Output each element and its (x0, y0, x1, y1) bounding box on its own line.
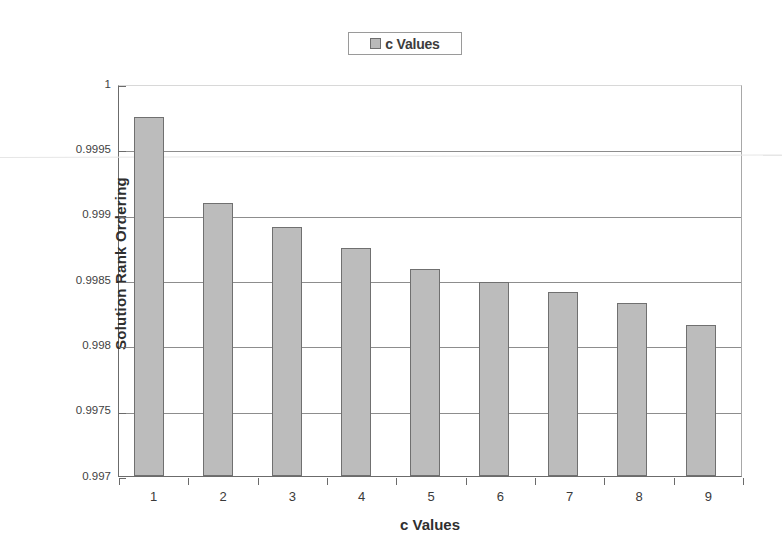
x-tick-mark-8 (674, 478, 675, 485)
y-tick-mark-5 (119, 413, 126, 414)
y-tick-label-1: 0.9995 (57, 143, 111, 155)
x-tick-label-9: 9 (688, 489, 728, 504)
bar-7[interactable] (548, 292, 578, 476)
y-tick-label-3: 0.9985 (57, 274, 111, 286)
legend-swatch-icon (370, 38, 381, 49)
y-tick-mark-6 (119, 478, 126, 479)
x-tick-label-3: 3 (272, 489, 312, 504)
bar-2[interactable] (203, 203, 233, 476)
y-tick-label-5: 0.9975 (57, 404, 111, 416)
x-tick-label-7: 7 (550, 489, 590, 504)
x-tick-label-1: 1 (134, 489, 174, 504)
bar-6[interactable] (479, 282, 509, 476)
y-tick-mark-2 (119, 217, 126, 218)
y-tick-label-4: 0.998 (57, 339, 111, 351)
y-tick-mark-1 (119, 151, 126, 152)
bar-5[interactable] (410, 269, 440, 476)
y-tick-mark-3 (119, 282, 126, 283)
x-tick-mark-0 (119, 478, 120, 485)
bar-1[interactable] (134, 117, 164, 476)
x-tick-mark-5 (466, 478, 467, 485)
bar-9[interactable] (686, 325, 716, 476)
x-tick-mark-1 (188, 478, 189, 485)
x-tick-label-5: 5 (411, 489, 451, 504)
y-tick-label-6: 0.997 (57, 470, 111, 482)
y-tick-label-2: 0.999 (57, 208, 111, 220)
x-tick-label-2: 2 (203, 489, 243, 504)
y-tick-label-0: 1 (57, 78, 111, 90)
y-tick-mark-4 (119, 347, 126, 348)
x-tick-mark-7 (604, 478, 605, 485)
bar-series-c-values (119, 86, 741, 476)
x-tick-label-8: 8 (619, 489, 659, 504)
y-tick-mark-0 (119, 86, 126, 87)
x-tick-mark-6 (535, 478, 536, 485)
bar-8[interactable] (617, 303, 647, 476)
chart-legend: c Values (348, 32, 462, 55)
x-tick-mark-9 (743, 478, 744, 485)
x-tick-mark-3 (327, 478, 328, 485)
legend-label: c Values (385, 36, 439, 52)
x-tick-mark-4 (396, 478, 397, 485)
x-tick-label-6: 6 (480, 489, 520, 504)
bar-3[interactable] (272, 227, 302, 476)
plot-area: 1 0.9995 0.999 0.9985 0.998 0.9975 0.997… (118, 85, 742, 477)
bar-4[interactable] (341, 248, 371, 476)
x-tick-mark-2 (258, 478, 259, 485)
x-tick-label-4: 4 (342, 489, 382, 504)
x-axis-title: c Values (118, 516, 742, 533)
